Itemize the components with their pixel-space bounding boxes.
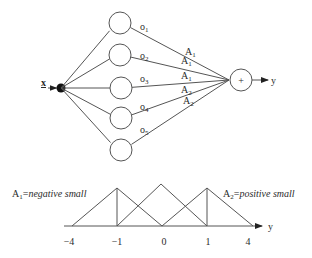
- input-edge-5: [61, 88, 111, 143]
- output-label-o1: o1: [140, 21, 149, 34]
- output-label-o5-subscript: 5: [145, 129, 149, 137]
- tick-label: −4: [64, 236, 75, 247]
- output-label-o4-subscript: 4: [145, 106, 149, 114]
- plus-icon: +: [238, 75, 244, 86]
- output-label-o4: o4: [140, 101, 149, 114]
- weight-label-3: A1: [181, 70, 192, 83]
- output-label-o5: o5: [140, 124, 149, 137]
- weight-label-2-subscript: 1: [188, 60, 192, 68]
- hidden-node-4: [110, 107, 132, 129]
- network: xo1A1o2A1o3A1o4A2o5A2+y: [41, 12, 276, 161]
- input-label: x: [41, 77, 46, 88]
- membership-triangle-2: [117, 184, 207, 226]
- membership-functions-plot: y−4−1014A1=negative smallA2=positive sma…: [12, 184, 295, 247]
- hidden-node-5: [110, 139, 132, 161]
- output-label-o2: o2: [140, 50, 149, 63]
- output-label-y: y: [271, 75, 276, 86]
- input-edge-2: [61, 59, 110, 88]
- weight-label-1-subscript: 1: [192, 51, 196, 59]
- weight-label-5-subscript: 2: [190, 100, 194, 108]
- hidden-node-3: [110, 77, 132, 99]
- output-label-o3: o3: [140, 73, 149, 86]
- tick-label: −1: [112, 236, 123, 247]
- input-edge-1: [61, 31, 110, 88]
- weight-label-3-subscript: 1: [188, 75, 192, 83]
- legend-description: positive small: [238, 188, 294, 199]
- fuzzy-network-diagram: xo1A1o2A1o3A1o4A2o5A2+y y−4−1014A1=negat…: [0, 0, 312, 258]
- input-edge-4: [61, 88, 111, 114]
- y-axis-label: y: [268, 221, 273, 232]
- tick-label: 1: [206, 236, 211, 247]
- tick-label: 4: [246, 236, 251, 247]
- legend-A2: A2=positive small: [223, 188, 295, 201]
- output-edge-1: [130, 28, 229, 80]
- output-label-o1-subscript: 1: [145, 26, 149, 34]
- output-label-o3-subscript: 3: [145, 78, 149, 86]
- output-label-o2-subscript: 2: [145, 55, 149, 63]
- hidden-node-1: [109, 12, 131, 34]
- legend-A1: A1=negative small: [12, 188, 87, 201]
- weight-label-5: A2: [183, 95, 194, 108]
- hidden-node-2: [109, 44, 131, 66]
- tick-label: 0: [162, 236, 167, 247]
- legend-description: negative small: [28, 188, 86, 199]
